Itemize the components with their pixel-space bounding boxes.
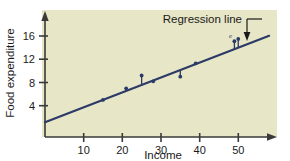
chart-figure: 16 12 8 4 10 20 30 40 50 e <box>0 0 290 161</box>
x-tick-label-20: 20 <box>116 144 128 156</box>
y-tick-label-4: 4 <box>29 100 35 112</box>
data-point <box>178 75 182 79</box>
y-axis-title: Food expenditure <box>4 28 16 118</box>
y-tick-label-12: 12 <box>23 53 35 65</box>
y-tick-label-16: 16 <box>23 30 35 42</box>
data-point <box>124 86 128 90</box>
data-point <box>151 79 155 83</box>
x-tick-label-10: 10 <box>78 144 90 156</box>
regression-scatter-plot: 16 12 8 4 10 20 30 40 50 e <box>0 0 290 161</box>
data-point <box>101 98 105 102</box>
y-tick-label-8: 8 <box>29 77 35 89</box>
data-point <box>140 74 144 78</box>
error-term-label: e <box>229 32 232 40</box>
data-point <box>194 61 198 65</box>
x-axis-title: Income <box>144 149 182 161</box>
regression-line-annotation: Regression line <box>163 13 242 25</box>
plot-background <box>42 10 277 137</box>
data-point <box>232 39 236 43</box>
x-tick-label-40: 40 <box>194 144 206 156</box>
data-point <box>236 37 240 41</box>
x-tick-label-50: 50 <box>232 144 244 156</box>
